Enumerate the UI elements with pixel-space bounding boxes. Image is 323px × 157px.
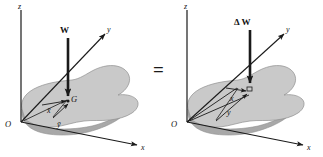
origin-label: O xyxy=(5,119,11,129)
weight-force-label: W xyxy=(60,25,69,35)
centroid-label: G xyxy=(71,94,77,104)
x-bar-label: x̄ xyxy=(46,106,51,115)
differential-weight-label: Δ W xyxy=(234,17,250,27)
y-distance-label: y xyxy=(226,108,231,117)
equivalence-figure: z y x O x̄ ȳ G W = z xyxy=(0,0,323,157)
axis-y-label: y xyxy=(285,25,290,34)
x-distance-label: x xyxy=(229,94,234,103)
equals-sign: = xyxy=(153,59,164,80)
axis-x-label: x xyxy=(140,143,145,152)
axis-x-label: x xyxy=(306,143,311,152)
origin-label: O xyxy=(171,119,177,129)
centroid-point xyxy=(66,99,69,102)
axis-y-label: y xyxy=(106,25,111,34)
y-bar-label: ȳ xyxy=(56,120,61,129)
